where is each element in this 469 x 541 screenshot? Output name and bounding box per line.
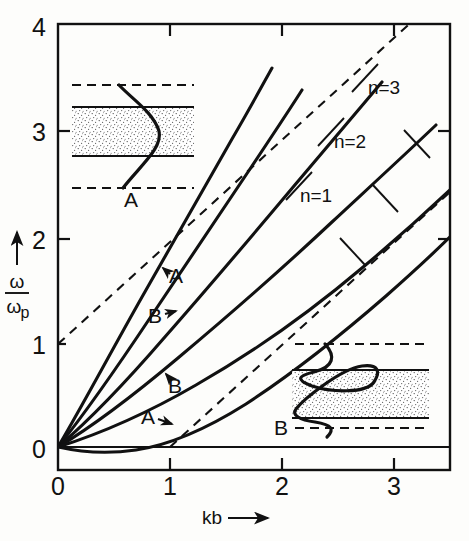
x-tick-label-2: 2 [275,472,289,500]
mode-label-n2: n=2 [334,131,366,152]
caption-strip [0,528,469,541]
y-axis-label-numerator: ω [10,271,25,292]
y-tick-label-4: 4 [32,13,46,41]
x-tick-label-3: 3 [387,472,401,500]
y-tick-label-0: 0 [32,435,46,463]
branch-label-B-upper: B [148,304,162,327]
y-axis-label-denominator: ω [7,296,22,317]
x-tick-label-1: 1 [163,472,177,500]
inset-A-slab-fill [72,107,194,156]
y-tick-label-3: 3 [32,118,46,146]
mode-label-n3: n=3 [368,77,400,98]
y-tick-label-1: 1 [32,331,46,359]
x-axis-label: kb [202,507,222,528]
dispersion-plot-figure: 4 3 2 1 0 0 1 2 3 ω ω p kb [0,0,469,541]
x-tick-label-0: 0 [51,472,65,500]
y-tick-label-2: 2 [32,226,46,254]
inset-A-label: A [124,188,138,211]
plot-canvas: 4 3 2 1 0 0 1 2 3 ω ω p kb [0,0,469,541]
y-axis-label-denominator-subscript: p [21,304,30,321]
mode-label-n1: n=1 [300,185,332,206]
branch-label-A-upper: A [169,264,183,287]
branch-label-A-lower: A [141,405,155,428]
inset-B-label: B [274,416,288,439]
